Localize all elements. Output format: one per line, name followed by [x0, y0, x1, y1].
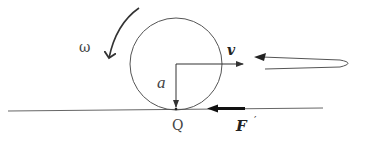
contact-point-dot — [175, 108, 178, 111]
force-prime-label: ′ — [254, 114, 257, 127]
force-label: F — [235, 117, 248, 135]
omega-label: ω — [79, 39, 90, 55]
friction-force-arrowhead — [207, 105, 218, 113]
hairpin-arrow — [262, 57, 348, 69]
rolling-disk-diagram: ω a v Q F ′ — [0, 0, 375, 151]
omega-rotation-arrow — [109, 8, 139, 58]
radius-label: a — [157, 73, 166, 92]
contact-point-label: Q — [172, 117, 183, 133]
hairpin-arrowhead — [254, 53, 266, 61]
velocity-label: v — [227, 42, 236, 58]
